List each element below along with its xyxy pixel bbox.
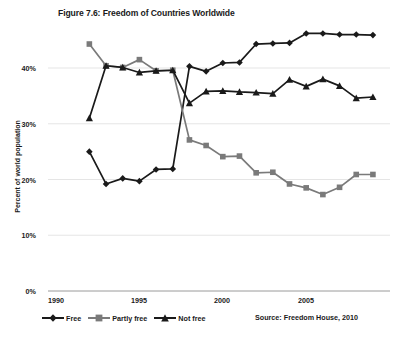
data-point-marker bbox=[220, 154, 226, 160]
data-point-marker bbox=[353, 31, 360, 38]
legend-marker-triangle-icon bbox=[154, 313, 176, 323]
data-point-marker bbox=[169, 166, 176, 173]
data-point-marker bbox=[103, 181, 110, 188]
source-note: Source: Freedom House, 2010 bbox=[255, 313, 358, 322]
data-point-marker bbox=[336, 31, 343, 38]
data-point-marker bbox=[320, 192, 326, 198]
figure-chart: Figure 7.6: Freedom of Countries Worldwi… bbox=[0, 0, 398, 343]
legend-marker-diamond-icon bbox=[42, 313, 64, 323]
legend-item-partly-free[interactable]: Partly free bbox=[88, 313, 147, 323]
data-point-marker bbox=[286, 76, 293, 83]
legend-label: Not free bbox=[178, 314, 205, 323]
data-point-marker bbox=[370, 32, 377, 39]
data-point-marker bbox=[137, 57, 143, 63]
data-point-marker bbox=[319, 76, 326, 83]
series-line bbox=[89, 33, 373, 184]
data-point-marker bbox=[86, 148, 93, 155]
series-line bbox=[89, 44, 373, 195]
data-point-marker bbox=[220, 60, 227, 67]
data-point-marker bbox=[270, 40, 277, 47]
series-free bbox=[86, 30, 376, 187]
series-layer bbox=[86, 30, 377, 197]
data-point-marker bbox=[303, 30, 310, 37]
legend: Free Partly free Not free bbox=[42, 313, 206, 323]
data-point-marker bbox=[253, 170, 259, 176]
data-point-marker bbox=[270, 169, 276, 175]
data-point-marker bbox=[87, 41, 93, 47]
plot-area bbox=[0, 0, 398, 343]
gridlines bbox=[48, 68, 390, 291]
data-point-marker bbox=[119, 175, 126, 182]
data-point-marker bbox=[86, 115, 93, 122]
data-point-marker bbox=[286, 40, 293, 47]
legend-label: Partly free bbox=[112, 314, 147, 323]
data-point-marker bbox=[303, 185, 309, 191]
data-point-marker bbox=[203, 68, 210, 75]
data-point-marker bbox=[337, 185, 343, 191]
data-point-marker bbox=[287, 181, 293, 187]
data-point-marker bbox=[186, 63, 193, 70]
data-point-marker bbox=[320, 30, 327, 37]
legend-label: Free bbox=[66, 314, 81, 323]
series-line bbox=[89, 66, 373, 118]
data-point-marker bbox=[370, 172, 376, 178]
legend-item-not-free[interactable]: Not free bbox=[154, 313, 205, 323]
data-point-marker bbox=[203, 143, 209, 149]
legend-item-free[interactable]: Free bbox=[42, 313, 81, 323]
legend-marker-square-icon bbox=[88, 313, 110, 323]
data-point-marker bbox=[187, 137, 193, 143]
data-point-marker bbox=[237, 153, 243, 159]
data-point-marker bbox=[353, 172, 359, 178]
series-not-free bbox=[86, 62, 377, 121]
series-partly-free bbox=[87, 41, 376, 197]
